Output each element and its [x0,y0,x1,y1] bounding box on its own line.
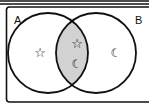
star-icon: ☆ [34,45,46,60]
star-icon: ☆ [71,36,83,51]
set-a-label: A [14,14,22,26]
moon-icon: ☾ [72,57,83,71]
venn-diagram: A B ☆ ☆ ☾ ☾ [0,0,149,106]
moon-icon: ☾ [111,46,122,60]
set-b-label: B [135,14,142,26]
